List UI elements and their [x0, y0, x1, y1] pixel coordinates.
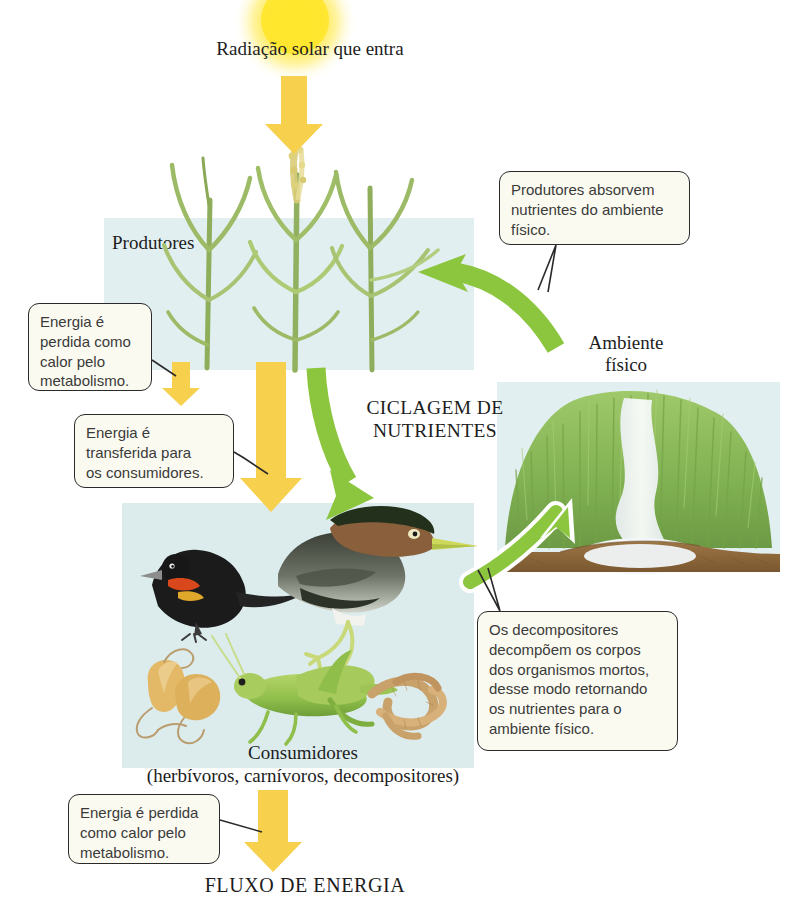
leader-transfer — [234, 452, 268, 474]
ecosystem-diagram: Radiação solar que entra — [0, 0, 804, 909]
callout-energy-transfer: Energia é transferida para os consumidor… — [74, 414, 234, 488]
callout-line: desse modo retornando — [489, 679, 667, 699]
energy-to-consumers-arrow — [240, 362, 302, 512]
consumers-label-line2: (herbívoros, carnívoros, decompositores) — [128, 765, 478, 788]
grain-spike — [289, 147, 307, 200]
leader-decomposers — [478, 568, 500, 611]
callout-line: decompõem os corpos — [489, 640, 667, 660]
nutrient-cycling-line1: CICLAGEM DE — [350, 396, 520, 419]
solar-energy-arrow — [265, 76, 323, 154]
environment-panel — [497, 382, 780, 572]
callout-line: Energia é perdida — [80, 803, 209, 823]
nutrient-cycling-line2: NUTRIENTES — [350, 419, 520, 442]
producers-to-consumers-nutrient-arrow — [316, 368, 348, 482]
consumers-label-line1: Consumidores — [128, 742, 478, 765]
leader-nutrients — [538, 245, 556, 292]
callout-line: ambiente físico. — [489, 719, 667, 739]
callout-heat-loss-consumers: Energia é perdida como calor pelo metabo… — [68, 794, 220, 864]
callout-line: metabolismo. — [80, 843, 209, 863]
physical-environment-label: Ambiente físico — [556, 332, 696, 377]
callout-decomposers: Os decompositores decompõem os corpos do… — [477, 611, 678, 751]
callout-line: Energia é — [40, 312, 141, 332]
callout-producers-absorb-nutrients: Produtores absorvem nutrientes do ambien… — [499, 171, 690, 245]
incoming-solar-radiation-label: Radiação solar que entra — [170, 38, 450, 60]
callout-heat-loss-producers: Energia é perdida como calor pelo metabo… — [28, 303, 152, 391]
callout-line: perdida como — [40, 332, 141, 352]
environment-label-line1: Ambiente — [556, 332, 696, 354]
nutrient-cycling-label: CICLAGEM DE NUTRIENTES — [350, 396, 520, 443]
consumers-label: Consumidores (herbívoros, carnívoros, de… — [128, 742, 478, 788]
callout-line: físico. — [511, 220, 679, 240]
callout-line: Os decompositores — [489, 620, 667, 640]
callout-line: transferida para — [86, 443, 223, 463]
leader-heat-consumers — [220, 820, 262, 832]
callout-line: Produtores absorvem — [511, 180, 679, 200]
callout-line: como calor pelo — [80, 823, 209, 843]
environment-label-line2: físico — [556, 354, 696, 376]
producers-label: Produtores — [112, 232, 194, 254]
callout-line: os nutrientes para o — [489, 699, 667, 719]
callout-line: nutrientes do ambiente — [511, 200, 679, 220]
consumers-panel — [122, 503, 474, 768]
consumer-heat-loss-arrow — [244, 790, 302, 872]
callout-line: calor pelo — [40, 352, 141, 372]
callout-line: os consumidores. — [86, 463, 223, 483]
energy-flow-label: FLUXO DE ENERGIA — [120, 874, 490, 897]
callout-line: metabolismo. — [40, 371, 141, 391]
callout-line: Energia é — [86, 423, 223, 443]
callout-line: dos organismos mortos, — [489, 660, 667, 680]
